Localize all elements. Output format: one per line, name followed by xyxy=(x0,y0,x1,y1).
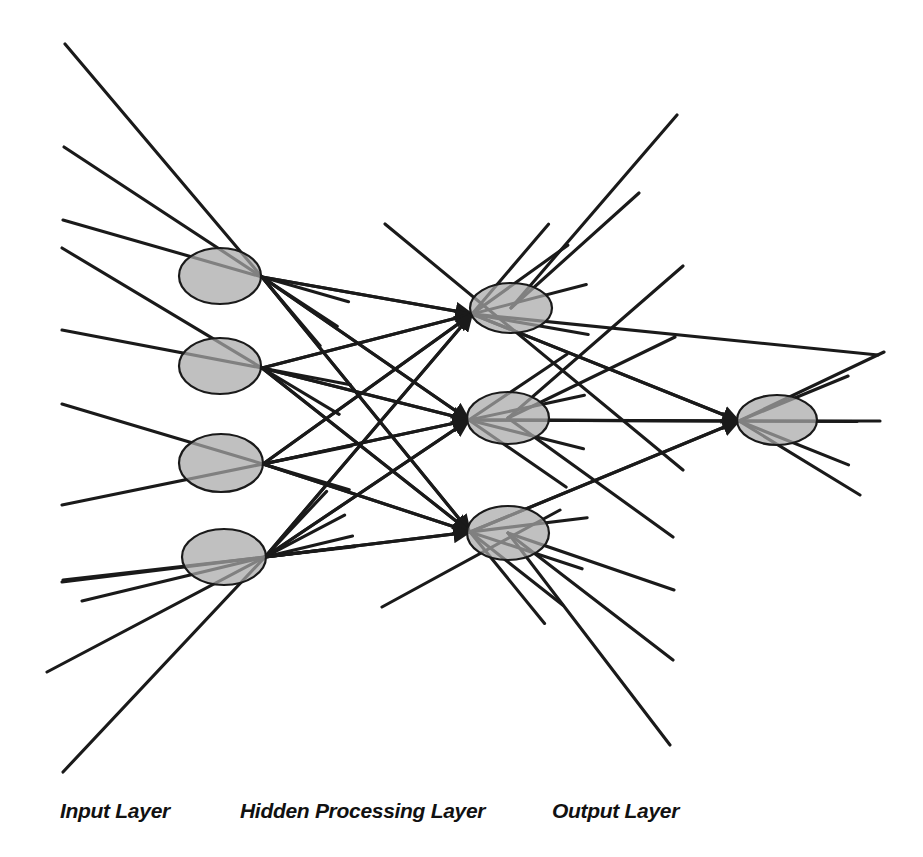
network-node-hid-3 xyxy=(467,506,549,560)
layer-labels: Input LayerHidden Processing LayerOutput… xyxy=(60,799,681,822)
input-stub-line xyxy=(63,491,327,772)
input-stub-lines xyxy=(47,44,354,772)
hidden-layer-label: Hidden Processing Layer xyxy=(240,799,487,822)
connection-arrow xyxy=(262,277,472,314)
connection-arrow xyxy=(262,314,472,368)
diagram-canvas: Input LayerHidden Processing LayerOutput… xyxy=(0,0,923,857)
network-node-out-1 xyxy=(737,395,817,445)
network-node-hid-2 xyxy=(467,392,549,444)
output-stub-line xyxy=(511,115,677,308)
neural-network-diagram: Input LayerHidden Processing LayerOutput… xyxy=(0,0,923,857)
output-layer-label: Output Layer xyxy=(552,799,681,822)
network-node-in-2 xyxy=(179,338,261,394)
network-node-in-1 xyxy=(179,248,261,304)
input-layer-label: Input Layer xyxy=(60,799,172,822)
network-node-hid-1 xyxy=(470,283,552,333)
connection-arrow xyxy=(262,277,469,420)
network-node-in-4 xyxy=(182,529,266,585)
network-node-in-3 xyxy=(179,434,263,492)
connection-arrow xyxy=(262,277,470,532)
network-nodes xyxy=(179,248,817,585)
